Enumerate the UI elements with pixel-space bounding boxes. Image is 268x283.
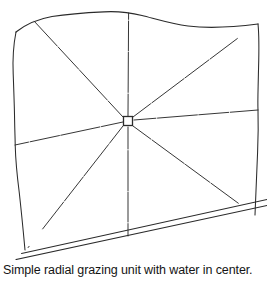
water-point-square <box>124 117 133 126</box>
spoke-upper-left <box>34 21 123 117</box>
paddock-boundary <box>13 12 267 260</box>
figure-root: Simple radial grazing unit with water in… <box>0 0 267 283</box>
water-point-hub <box>124 117 133 126</box>
bottom-road-inner-line <box>22 200 268 254</box>
figure-caption: Simple radial grazing unit with water in… <box>3 263 265 278</box>
spoke-upper-right <box>133 26 254 117</box>
spoke-up <box>128 13 129 116</box>
boundary-top-edge <box>16 12 258 32</box>
boundary-right-edge <box>255 24 259 215</box>
spoke-lower-right <box>133 126 253 214</box>
spoke-left <box>15 122 123 145</box>
radial-grazing-unit-diagram <box>0 0 267 260</box>
boundary-left-edge <box>13 32 25 250</box>
radial-fence-spokes <box>15 13 258 249</box>
bottom-road-outer-line <box>16 206 267 260</box>
spoke-lower-left <box>27 126 123 249</box>
spoke-right <box>134 110 258 120</box>
